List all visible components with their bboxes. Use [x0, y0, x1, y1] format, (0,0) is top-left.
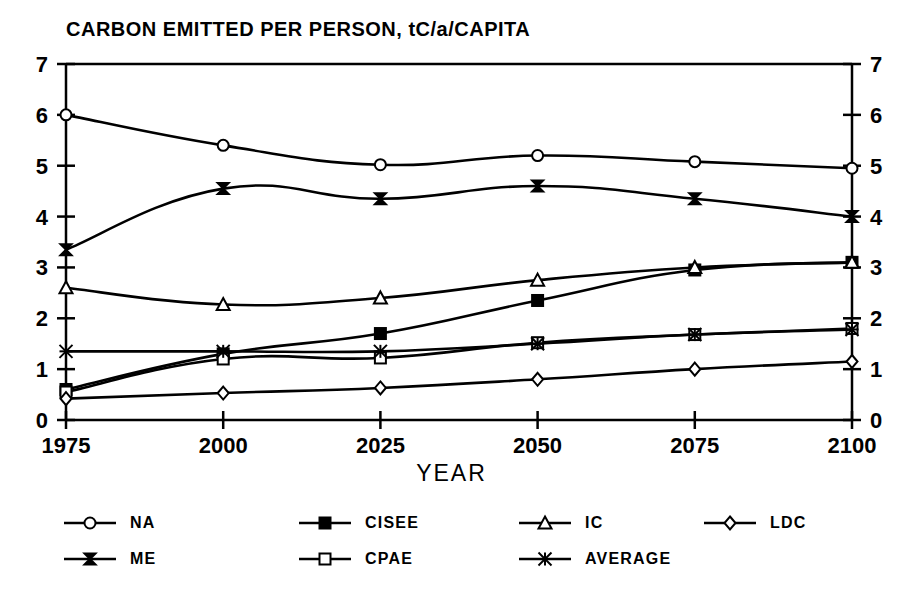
legend-label: AVERAGE	[585, 550, 671, 568]
chart-series-me	[61, 181, 858, 256]
legend-item-ic[interactable]: IC	[515, 513, 603, 533]
data-point-marker	[375, 328, 386, 339]
data-point-marker	[532, 373, 543, 386]
x-tick-label: 2100	[828, 433, 877, 458]
legend-item-cpae[interactable]: CPAE	[295, 549, 413, 569]
legend-marker-asterisk-icon	[515, 549, 575, 569]
y-tick-label-right: 0	[870, 408, 882, 433]
data-point-marker	[218, 387, 229, 400]
y-tick-label-left: 7	[36, 52, 48, 77]
data-point-marker	[688, 328, 701, 341]
y-tick-label-right: 2	[870, 306, 882, 331]
data-point-marker	[532, 295, 543, 306]
legend-item-cisee[interactable]: CISEE	[295, 513, 419, 533]
chart-series-na	[61, 109, 858, 173]
y-tick-label-left: 3	[36, 255, 48, 280]
data-point-marker	[218, 140, 229, 151]
data-point-marker	[375, 381, 386, 394]
data-point-marker	[61, 244, 72, 255]
y-tick-label-left: 6	[36, 103, 48, 128]
x-tick-label: 2075	[670, 433, 719, 458]
x-tick-label: 2000	[199, 433, 248, 458]
legend-marker-filled-square-icon	[295, 513, 355, 533]
legend-row: NACISEEICLDC	[60, 505, 860, 541]
legend-label: NA	[130, 514, 156, 532]
legend-marker-open-square-icon	[295, 549, 355, 569]
legend-marker-diamond-icon	[700, 513, 760, 533]
legend-row: MECPAEAVERAGE	[60, 541, 860, 577]
y-tick-label-right: 4	[870, 205, 883, 230]
chart-series-average	[60, 323, 859, 358]
chart-series-layer	[60, 109, 859, 405]
legend-label: IC	[585, 514, 603, 532]
x-tick-label: 2050	[513, 433, 562, 458]
legend-item-average[interactable]: AVERAGE	[515, 549, 671, 569]
y-tick-label-right: 3	[870, 255, 882, 280]
data-point-marker	[532, 150, 543, 161]
chart-series-ic	[60, 256, 859, 310]
legend-label: ME	[130, 550, 156, 568]
data-point-marker	[689, 156, 700, 167]
data-point-marker	[689, 363, 700, 376]
legend-marker-triangle-icon	[515, 513, 575, 533]
chart-series-cpae	[61, 323, 858, 398]
data-point-marker	[846, 323, 859, 336]
data-point-marker	[217, 345, 230, 358]
legend-item-na[interactable]: NA	[60, 513, 156, 533]
data-point-marker	[61, 109, 72, 120]
x-tick-label: 2025	[356, 433, 405, 458]
chart-axes	[57, 64, 861, 429]
y-tick-label-right: 6	[870, 103, 882, 128]
y-tick-label-left: 4	[36, 205, 49, 230]
data-point-marker	[531, 337, 544, 350]
chart-tick-labels: 0011223344556677197520002025205020752100	[36, 52, 883, 458]
y-tick-label-right: 1	[870, 357, 882, 382]
data-point-marker	[60, 345, 73, 358]
y-tick-label-right: 7	[870, 52, 882, 77]
y-tick-label-left: 0	[36, 408, 48, 433]
legend-label: LDC	[770, 514, 806, 532]
x-axis-title: YEAR	[0, 460, 903, 487]
data-point-marker	[374, 345, 387, 358]
y-tick-label-left: 5	[36, 154, 48, 179]
legend-item-ldc[interactable]: LDC	[700, 513, 806, 533]
chart-page: CARBON EMITTED PER PERSON, tC/a/CAPITA 0…	[0, 0, 903, 607]
chart-plot-area: 0011223344556677197520002025205020752100	[0, 0, 903, 460]
chart-series-cisee	[61, 257, 858, 395]
legend-label: CISEE	[365, 514, 419, 532]
legend-marker-hourglass-x-icon	[60, 549, 120, 569]
y-tick-label-left: 1	[36, 357, 48, 382]
chart-legend: NACISEEICLDCMECPAEAVERAGE	[60, 505, 860, 577]
data-point-marker	[375, 159, 386, 170]
y-tick-label-left: 2	[36, 306, 48, 331]
data-point-marker	[847, 163, 858, 174]
legend-label: CPAE	[365, 550, 413, 568]
y-tick-label-right: 5	[870, 154, 882, 179]
x-tick-label: 1975	[42, 433, 91, 458]
legend-marker-circle-icon	[60, 513, 120, 533]
data-point-marker	[847, 355, 858, 368]
legend-item-me[interactable]: ME	[60, 549, 156, 569]
